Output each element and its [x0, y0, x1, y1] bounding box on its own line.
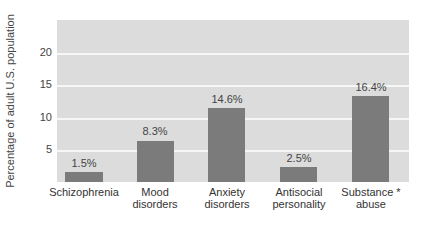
y-tick-10: 10 [32, 111, 52, 123]
y-axis-label: Percentage of adult U.S. population [1, 20, 19, 182]
value-label-schizophrenia: 1.5% [54, 157, 114, 169]
bar-anxiety-disorders [208, 108, 245, 182]
bar-antisocial-personality [280, 167, 317, 182]
value-label-mood-disorders: 8.3% [125, 125, 185, 137]
value-label-anxiety-disorders: 14.6% [197, 93, 257, 105]
category-label-mood-disorders: Mood disorders [115, 186, 195, 210]
category-label-antisocial-personality: Antisocial personality [259, 186, 339, 210]
value-label-substance-abuse: 16.4% [341, 81, 401, 93]
y-tick-20: 20 [32, 46, 52, 58]
category-label-anxiety-disorders: Anxiety disorders [187, 186, 267, 210]
category-label-substance-abuse: Substance * abuse [331, 186, 411, 210]
y-tick-5: 5 [32, 143, 52, 155]
bar-mood-disorders [137, 141, 174, 182]
value-label-antisocial-personality: 2.5% [269, 152, 329, 164]
y-axis-label-text: Percentage of adult U.S. population [4, 14, 16, 188]
bar-schizophrenia [65, 172, 103, 182]
plot-area: 1.5% 8.3% 14.6% 2.5% 16.4% [57, 20, 409, 182]
y-tick-15: 15 [32, 78, 52, 90]
category-label-schizophrenia: Schizophrenia [44, 186, 124, 198]
bar-substance-abuse [352, 96, 389, 182]
gridline-20 [57, 53, 409, 55]
